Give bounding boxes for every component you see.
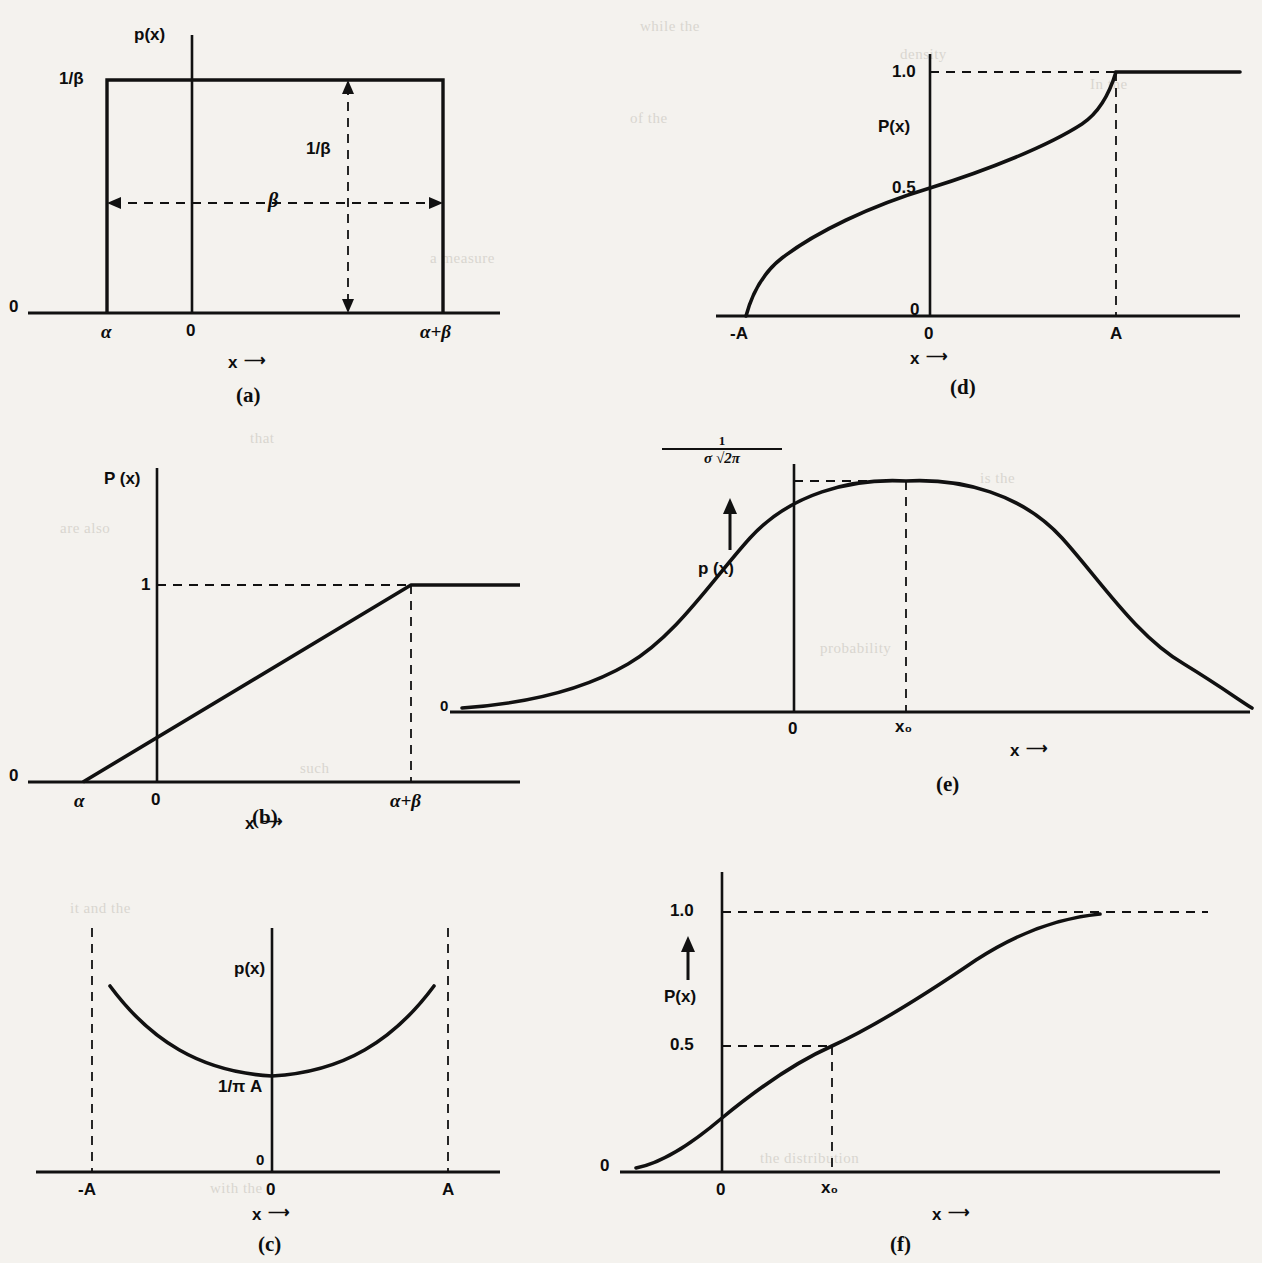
panel-d-caption: (d) — [950, 375, 976, 400]
panel-a-xlabel: x — [228, 354, 237, 371]
panel-e-peak-value-label: 1 σ √2π — [662, 434, 782, 466]
panel-a-origin-zero: 0 — [9, 298, 18, 315]
panel-f-ytick-half: 0.5 — [670, 1036, 694, 1053]
panel-e-xtick-zero: 0 — [788, 720, 797, 737]
panel-b-xtick-zero: 0 — [151, 791, 160, 808]
panel-c-xlabel: x — [252, 1206, 261, 1223]
panel-e: 1 σ √2π p (x) 0 0 x₀ x ⟶ (e) — [440, 420, 1262, 820]
panel-e-xlabel: x — [1010, 742, 1019, 759]
panel-d-ytick-half: 0.5 — [892, 179, 916, 196]
panel-e-ylabel: p (x) — [698, 560, 734, 577]
panel-d-ytick-one: 1.0 — [892, 63, 916, 80]
panel-e-origin-zero: 0 — [440, 698, 448, 713]
panel-a-ytick-1overbeta: 1/β — [59, 70, 84, 87]
panel-b-xtick-alpha: α — [74, 791, 85, 810]
panel-d-ytick-zero: 0 — [910, 301, 919, 318]
panel-b-caption: (b) — [252, 805, 278, 830]
panel-a: p(x) 1/β 0 α 0 α+β β 1/β x ⟶ (a) — [0, 0, 520, 420]
panel-c-ylabel: p(x) — [234, 960, 265, 977]
panel-f-xtick-zero: 0 — [716, 1181, 725, 1198]
panel-e-plot — [440, 420, 1262, 820]
panel-f-xlabel: x — [932, 1206, 941, 1223]
panel-a-caption: (a) — [236, 383, 261, 408]
x-axis-arrow-icon: ⟶ — [926, 348, 948, 363]
panel-b-origin-zero: 0 — [9, 767, 18, 784]
gaussian-pdf-curve — [462, 481, 1252, 708]
x-axis-arrow-icon: ⟶ — [268, 1204, 290, 1219]
arcsine-cdf-curve — [746, 72, 1240, 316]
beta-arrowhead-right — [429, 197, 443, 209]
panel-b-ylabel: P (x) — [104, 470, 141, 487]
panel-d-xtick-zero: 0 — [924, 325, 933, 342]
ylabel-arrow-head-icon — [723, 498, 737, 514]
panel-c-origin-zero-marker: 0 — [256, 1152, 264, 1167]
oneoverbeta-arrowhead-top — [342, 80, 354, 94]
panel-a-xtick-alpha-plus-beta: α+β — [420, 322, 451, 341]
panel-b-ytick-one: 1 — [141, 576, 150, 593]
beta-arrowhead-left — [107, 197, 121, 209]
panel-d-xtick-minusA: -A — [730, 325, 748, 342]
panel-d: 1.0 P(x) 0.5 0 -A 0 A x ⟶ (d) — [620, 20, 1262, 420]
panel-d-ylabel: P(x) — [878, 118, 910, 135]
x-axis-arrow-icon: ⟶ — [1026, 740, 1048, 755]
gaussian-cdf-curve — [636, 914, 1100, 1168]
panel-f-origin-zero: 0 — [600, 1157, 609, 1174]
panel-c-min-value-annotation: 1/π A — [218, 1078, 262, 1095]
x-axis-arrow-icon: ⟶ — [948, 1204, 970, 1219]
panel-c-caption: (c) — [258, 1232, 281, 1257]
panel-e-xtick-x0: x₀ — [895, 718, 912, 735]
panel-b-xtick-alpha-plus-beta: α+β — [390, 791, 421, 810]
ylabel-arrow-head-icon — [681, 936, 695, 952]
panel-f-ytick-one: 1.0 — [670, 902, 694, 919]
panel-d-xtick-plusA: A — [1110, 325, 1122, 342]
oneoverbeta-arrowhead-bottom — [342, 299, 354, 313]
panel-c-xtick-plusA: A — [442, 1181, 454, 1198]
panel-a-beta-annotation: β — [268, 190, 278, 210]
panel-a-oneoverbeta-annotation: 1/β — [306, 140, 331, 157]
panel-a-xtick-alpha: α — [101, 322, 112, 341]
panel-c-xtick-zero: 0 — [266, 1181, 275, 1198]
figure-page: while the density of the In the that are… — [0, 0, 1262, 1263]
panel-f-xtick-x0: x₀ — [821, 1179, 838, 1196]
panel-f: 1.0 P(x) 0.5 0 0 x₀ x ⟶ (f) — [560, 840, 1262, 1263]
x-axis-arrow-icon: ⟶ — [244, 352, 266, 367]
peak-label-denominator: σ √2π — [662, 448, 782, 467]
peak-label-numerator: 1 — [662, 434, 782, 448]
panel-c-xtick-minusA: -A — [78, 1181, 96, 1198]
panel-d-xlabel: x — [910, 350, 919, 367]
panel-a-ylabel: p(x) — [134, 26, 165, 43]
panel-f-plot — [560, 840, 1262, 1263]
panel-c-plot — [0, 850, 540, 1263]
panel-a-xtick-zero: 0 — [186, 322, 195, 339]
panel-f-caption: (f) — [890, 1232, 911, 1257]
panel-c: p(x) 1/π A 0 -A 0 A x ⟶ (c) — [0, 850, 540, 1263]
panel-e-caption: (e) — [936, 772, 959, 797]
panel-f-ylabel: P(x) — [664, 988, 696, 1005]
